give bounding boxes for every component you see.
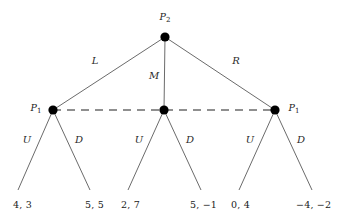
bottom-edge-group <box>18 110 312 190</box>
edge-right-D <box>275 110 312 190</box>
payoff-MU: 2, 7 <box>121 200 140 210</box>
edge-right-U <box>239 110 275 190</box>
player-label-root: P2 <box>160 12 171 22</box>
payoff-RD: −4, −2 <box>296 200 331 210</box>
action-label-edge-middle-D: D <box>186 135 194 145</box>
player-label-left: P1 <box>31 103 42 113</box>
edge-middle-U <box>128 110 164 190</box>
action-label-edge-right-D: D <box>297 135 305 145</box>
top-edge-group <box>53 37 275 110</box>
edge-R <box>165 37 275 110</box>
payoff-RU: 0, 4 <box>231 200 250 210</box>
action-label-edge-left-D: D <box>75 135 83 145</box>
edge-M <box>164 37 165 110</box>
action-label-r-right: R <box>232 56 240 66</box>
payoff-LU: 4, 3 <box>13 200 32 210</box>
game-tree-figure: LMRUDUDUDP2P1P14, 35, 52, 75, −10, 4−4, … <box>0 0 342 224</box>
edge-middle-D <box>164 110 201 190</box>
decision-node-right[interactable] <box>270 105 279 114</box>
payoff-LD: 5, 5 <box>85 200 104 210</box>
player-label-right: P1 <box>289 103 300 113</box>
payoff-MD: 5, −1 <box>190 200 217 210</box>
decision-node-left[interactable] <box>48 105 57 114</box>
action-label-edge-left-U: U <box>23 135 31 145</box>
edge-left-D <box>53 110 90 190</box>
action-label-m-middle: M <box>149 71 159 81</box>
edge-left-U <box>18 110 53 190</box>
decision-node-root[interactable] <box>160 32 169 41</box>
action-label-edge-right-U: U <box>246 135 254 145</box>
decision-node-middle[interactable] <box>159 105 168 114</box>
action-label-l-left: L <box>92 56 99 66</box>
action-label-edge-middle-U: U <box>135 135 143 145</box>
